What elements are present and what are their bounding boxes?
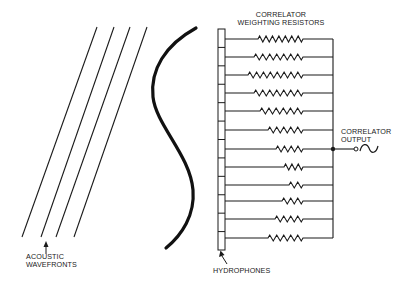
weighting-resistor: [225, 54, 333, 60]
weighting-resistor: [225, 90, 333, 96]
weighting-resistor: [225, 36, 333, 42]
wavefronts-label-line2: WAVEFRONTS: [26, 260, 77, 269]
weighting-resistor: [225, 198, 333, 204]
hydrophone-array: [218, 29, 225, 250]
wavefront-line: [22, 27, 97, 237]
acoustic-wavefront-lines: [22, 27, 147, 237]
weighting-resistor: [225, 182, 333, 188]
resistors-title-line2: WEIGHTING RESISTORS: [238, 18, 325, 27]
hydrophones-label: HYDROPHONES: [213, 266, 271, 275]
wavefront-line: [74, 27, 147, 237]
curved-wavefront: [153, 28, 196, 248]
weighting-resistor-channels: [225, 36, 333, 241]
weighting-resistor: [225, 108, 333, 114]
correlator-output-node: [331, 145, 378, 153]
hydrophones-arrow-icon: [219, 251, 227, 265]
weighting-resistor: [225, 127, 333, 133]
weighting-resistor: [225, 216, 333, 222]
weighting-resistor: [225, 146, 333, 152]
sine-wave-icon: [360, 145, 378, 153]
output-terminal-icon: [354, 147, 358, 151]
weighting-resistor: [225, 235, 333, 241]
sonar-correlator-diagram: ACOUSTIC WAVEFRONTS CORRELATOR OUTPUT CO…: [0, 0, 402, 287]
weighting-resistor: [225, 164, 333, 170]
wavefront-line: [41, 27, 114, 237]
output-label-line2: OUTPUT: [341, 135, 372, 144]
weighting-resistor: [225, 72, 333, 78]
wavefront-line: [56, 27, 130, 237]
